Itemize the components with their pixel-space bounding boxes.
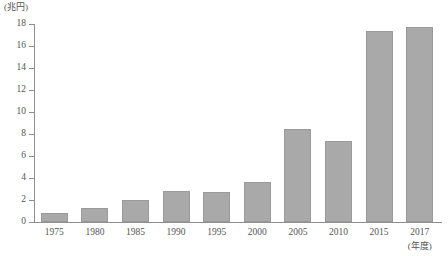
x-tick-label: 2017	[399, 226, 440, 239]
bar	[122, 200, 149, 222]
y-tick-mark: 10	[29, 112, 34, 113]
x-axis-line	[34, 222, 442, 223]
x-axis-unit-label: (年度)	[399, 240, 440, 252]
bar	[325, 141, 352, 222]
bar	[163, 191, 190, 222]
bar	[366, 31, 393, 222]
y-axis-line	[34, 24, 35, 222]
y-tick-label: 0	[21, 215, 26, 228]
y-tick-label: 6	[21, 149, 26, 162]
y-tick-label: 18	[17, 17, 27, 30]
bar	[203, 192, 230, 222]
y-tick-label: 2	[21, 193, 26, 206]
bar	[406, 27, 433, 222]
y-tick-mark: 18	[29, 24, 34, 25]
y-tick-label: 10	[17, 105, 27, 118]
y-tick-mark: 4	[29, 178, 34, 179]
x-tick-label: 1990	[156, 226, 197, 239]
y-tick-label: 12	[17, 83, 27, 96]
y-tick-mark: 8	[29, 134, 34, 135]
bar-chart: (兆円) 024681012141618 1975198019851990199…	[0, 0, 448, 256]
x-tick-label: 2005	[278, 226, 319, 239]
y-tick-mark: 12	[29, 90, 34, 91]
y-tick-mark: 0	[29, 222, 34, 223]
x-tick-label: 2015	[359, 226, 400, 239]
bar	[244, 182, 271, 222]
y-tick-label: 4	[21, 171, 26, 184]
y-tick-mark: 2	[29, 200, 34, 201]
y-axis-unit-label: (兆円)	[4, 2, 28, 13]
x-tick-label: 1995	[196, 226, 237, 239]
plot-area: 024681012141618 197519801985199019952000…	[34, 24, 440, 222]
x-tick-label: 1980	[75, 226, 116, 239]
x-tick-label: 2000	[237, 226, 278, 239]
y-tick-label: 16	[17, 39, 27, 52]
x-tick-label: 1985	[115, 226, 156, 239]
x-tick-label: 1975	[34, 226, 75, 239]
y-tick-mark: 16	[29, 46, 34, 47]
x-tick-label: 2010	[318, 226, 359, 239]
bar	[41, 213, 68, 222]
y-tick-mark: 6	[29, 156, 34, 157]
bar	[284, 129, 311, 223]
bar	[81, 208, 108, 222]
y-tick-mark: 14	[29, 68, 34, 69]
y-tick-label: 14	[17, 61, 27, 74]
y-tick-label: 8	[21, 127, 26, 140]
